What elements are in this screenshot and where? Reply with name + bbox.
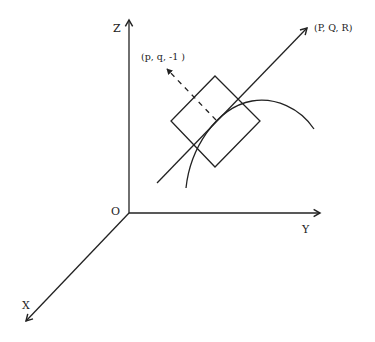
- origin-label: O: [111, 205, 120, 218]
- normal-vector-dashed: [167, 69, 216, 120]
- normal-vector-label: (p, q, -1 ): [141, 51, 185, 62]
- x-axis-label: X: [22, 299, 30, 312]
- line-end-label: (P, Q, R): [314, 22, 352, 33]
- surface-normal-diagram: Z Y X O (P, Q, R) (p, q, -1 ): [0, 0, 375, 342]
- z-axis-label: Z: [113, 22, 121, 35]
- y-axis-label: Y: [301, 223, 310, 236]
- x-axis: [26, 213, 129, 321]
- surface-curve: [186, 100, 314, 188]
